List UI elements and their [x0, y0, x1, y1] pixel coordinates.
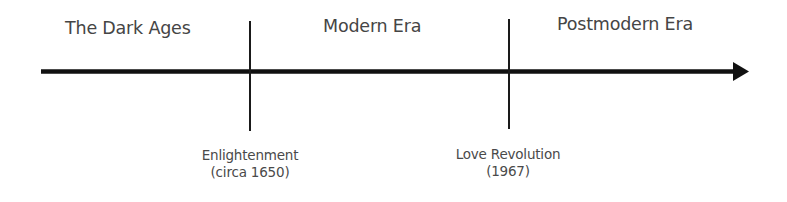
event-label-enlightenment: Enlightenment (circa 1650): [170, 147, 330, 181]
event-date: (circa 1650): [170, 164, 330, 181]
event-date: (1967): [428, 163, 588, 180]
event-label-love-revolution: Love Revolution (1967): [428, 146, 588, 180]
event-name: Enlightenment: [170, 147, 330, 164]
event-name: Love Revolution: [428, 146, 588, 163]
era-label-postmodern: Postmodern Era: [557, 16, 693, 34]
arrow-head-icon: [733, 62, 749, 81]
era-label-dark-ages: The Dark Ages: [65, 20, 191, 38]
era-label-modern: Modern Era: [323, 18, 421, 36]
